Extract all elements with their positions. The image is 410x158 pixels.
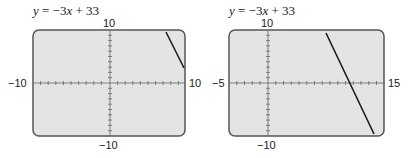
graph-panel-2: y = −3x + 33 10 −10 −5 15 xyxy=(0,0,410,158)
graph-screen-2 xyxy=(0,0,410,158)
